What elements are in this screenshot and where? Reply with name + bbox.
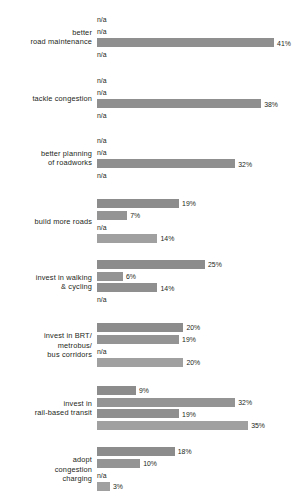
series-row: 32% <box>97 158 300 170</box>
bar-value-label: 41% <box>277 39 291 48</box>
na-label: n/a <box>97 347 107 356</box>
series-rows: n/an/a38%n/a <box>97 75 300 121</box>
category-label: tackle congestion <box>0 94 92 103</box>
series-row: 20% <box>97 357 300 369</box>
series-row: n/a <box>97 170 300 182</box>
na-label: n/a <box>97 295 107 304</box>
bar-value-label: 20% <box>186 323 200 332</box>
series-rows: n/an/a32%n/a <box>97 135 300 181</box>
bar-value-label: 38% <box>264 100 278 109</box>
bar <box>97 159 235 168</box>
series-row: 6% <box>97 271 300 283</box>
na-label: n/a <box>97 27 107 36</box>
bar-value-label: 14% <box>160 284 174 293</box>
na-label: n/a <box>97 88 107 97</box>
bar-value-label: 3% <box>113 482 123 491</box>
series-rows: 19%7%n/a14% <box>97 198 300 244</box>
category-group: tackle congestionn/an/a38%n/a <box>0 75 300 121</box>
category-group: better planning of roadworksn/an/a32%n/a <box>0 135 300 181</box>
series-row: 41% <box>97 37 300 49</box>
series-row: 32% <box>97 397 300 409</box>
bar-value-label: 32% <box>238 398 252 407</box>
category-group: build more roads19%7%n/a14% <box>0 198 300 244</box>
bar-value-label: 19% <box>182 410 196 419</box>
series-row: n/a <box>97 221 300 233</box>
bar <box>97 447 175 456</box>
category-group: better road maintenancen/an/a41%n/a <box>0 14 300 60</box>
series-rows: 9%32%19%35% <box>97 385 300 431</box>
series-row: n/a <box>97 294 300 306</box>
bar <box>97 199 179 208</box>
na-label: n/a <box>97 171 107 180</box>
bar-value-label: 32% <box>238 160 252 169</box>
series-row: 18% <box>97 446 300 458</box>
na-label: n/a <box>97 15 107 24</box>
bar <box>97 398 235 407</box>
bar-value-label: 6% <box>126 272 136 281</box>
bar <box>97 283 157 292</box>
series-rows: 20%19%n/a20% <box>97 322 300 368</box>
category-label: better road maintenance <box>0 28 92 46</box>
series-row: 14% <box>97 233 300 245</box>
bar-value-label: 7% <box>130 211 140 220</box>
series-row: n/a <box>97 14 300 26</box>
na-label: n/a <box>97 136 107 145</box>
na-label: n/a <box>97 223 107 232</box>
bar <box>97 38 274 47</box>
category-label: adopt congestion charging <box>0 455 92 483</box>
series-row: 35% <box>97 420 300 432</box>
bar <box>97 409 179 418</box>
bar <box>97 358 183 367</box>
bar <box>97 459 140 468</box>
bar <box>97 421 248 430</box>
series-row: n/a <box>97 345 300 357</box>
series-row: 9% <box>97 385 300 397</box>
category-group: adopt congestion charging18%10%n/a3% <box>0 446 300 492</box>
series-row: 19% <box>97 334 300 346</box>
series-rows: 25%6%14%n/a <box>97 259 300 305</box>
series-row: n/a <box>97 75 300 87</box>
bar <box>97 234 157 243</box>
series-rows: 18%10%n/a3% <box>97 446 300 492</box>
category-label: build more roads <box>0 217 92 226</box>
bar-value-label: 20% <box>186 358 200 367</box>
series-rows: n/an/a41%n/a <box>97 14 300 60</box>
series-row: n/a <box>97 26 300 38</box>
series-row: n/a <box>97 135 300 147</box>
na-label: n/a <box>97 76 107 85</box>
category-group: invest in BRT/ metrobus/ bus corridors20… <box>0 322 300 368</box>
bar <box>97 99 261 108</box>
bar <box>97 272 123 281</box>
series-row: n/a <box>97 49 300 61</box>
series-row: n/a <box>97 469 300 481</box>
bar <box>97 323 183 332</box>
category-group: invest in walking & cycling25%6%14%n/a <box>0 259 300 305</box>
bar-value-label: 9% <box>139 386 149 395</box>
bar <box>97 260 205 269</box>
series-row: 38% <box>97 98 300 110</box>
series-row: 19% <box>97 198 300 210</box>
na-label: n/a <box>97 50 107 59</box>
bar <box>97 211 127 220</box>
series-row: 14% <box>97 282 300 294</box>
category-group: invest in rail-based transit9%32%19%35% <box>0 385 300 431</box>
bar-value-label: 19% <box>182 199 196 208</box>
series-row: n/a <box>97 87 300 99</box>
series-row: 19% <box>97 408 300 420</box>
na-label: n/a <box>97 471 107 480</box>
series-row: n/a <box>97 110 300 122</box>
series-row: 3% <box>97 481 300 493</box>
na-label: n/a <box>97 111 107 120</box>
series-row: 20% <box>97 322 300 334</box>
category-label: invest in rail-based transit <box>0 399 92 417</box>
category-label: better planning of roadworks <box>0 149 92 167</box>
series-row: 25% <box>97 259 300 271</box>
bar-value-label: 19% <box>182 335 196 344</box>
bar <box>97 482 110 491</box>
bar-value-label: 14% <box>160 234 174 243</box>
series-row: 10% <box>97 458 300 470</box>
bar-chart: better road maintenancen/an/a41%n/atackl… <box>0 0 300 495</box>
bar-value-label: 25% <box>208 260 222 269</box>
bar <box>97 335 179 344</box>
na-label: n/a <box>97 148 107 157</box>
